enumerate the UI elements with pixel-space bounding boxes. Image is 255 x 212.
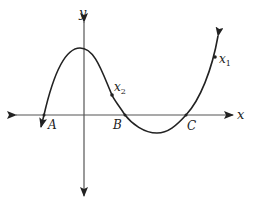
intercept-b-label: B	[112, 118, 122, 132]
graph-svg: y x A B C x1 x2	[0, 0, 255, 212]
intercept-c-label: C	[187, 119, 196, 133]
intercept-c-dot	[185, 114, 188, 117]
diagram-canvas: y x A B C x1 x2	[0, 0, 255, 212]
point-x1-dot	[213, 55, 217, 59]
point-x1-label: x1	[219, 52, 231, 68]
point-x2-label: x2	[114, 80, 126, 96]
x-axis-label: x	[237, 107, 245, 122]
intercept-b-dot	[124, 114, 127, 117]
intercept-a-dot	[43, 114, 46, 117]
intercept-a-label: A	[47, 118, 57, 132]
y-axis-label: y	[78, 5, 87, 20]
